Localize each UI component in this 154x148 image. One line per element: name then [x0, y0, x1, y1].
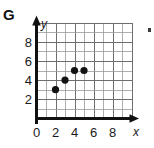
- x-tick-label: 6: [86, 126, 102, 139]
- y-tick-label: 8: [18, 36, 32, 49]
- data-point: [61, 77, 68, 84]
- x-tick-label: 0: [29, 126, 45, 139]
- x-tick-label: 4: [67, 126, 83, 139]
- y-tick-label: 4: [18, 74, 32, 87]
- x-tick-label: 8: [105, 126, 121, 139]
- scatter-plot-figure: G 024682468 x y: [0, 0, 154, 148]
- y-tick-label: 2: [18, 93, 32, 106]
- x-axis-arrowhead: [130, 114, 140, 122]
- x-tick-label: 2: [48, 126, 64, 139]
- y-tick-label: 6: [18, 55, 32, 68]
- data-point: [80, 67, 87, 74]
- y-axis-label: y: [41, 18, 47, 30]
- x-axis-label: x: [133, 126, 139, 138]
- edge-artifact: [148, 28, 151, 32]
- y-axis-arrowhead: [32, 16, 41, 26]
- data-point: [71, 67, 78, 74]
- data-point: [52, 86, 59, 93]
